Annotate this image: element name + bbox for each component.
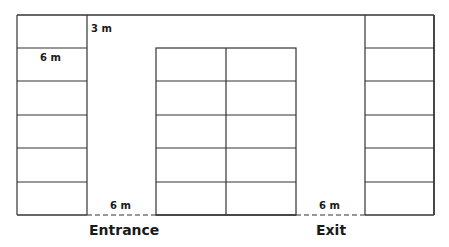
aisle-width-label: 3 m <box>91 23 112 34</box>
space-length-label: 6 m <box>40 52 61 63</box>
parking-lot-diagram <box>0 0 449 247</box>
entrance-label: Entrance <box>89 222 159 238</box>
exit-label: Exit <box>316 222 346 238</box>
entrance-width-label: 6 m <box>110 200 131 211</box>
exit-width-label: 6 m <box>319 200 340 211</box>
